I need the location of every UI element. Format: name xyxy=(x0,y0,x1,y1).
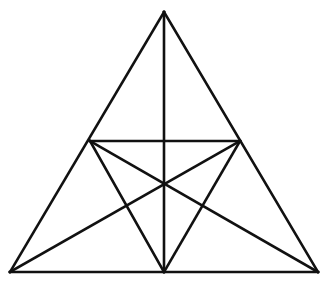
geometric-figure-canvas xyxy=(0,0,329,281)
